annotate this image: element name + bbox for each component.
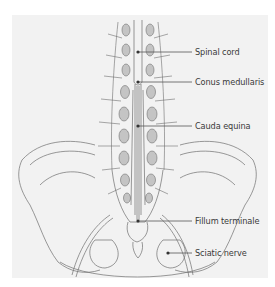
spine-pelvis-illustration (0, 0, 275, 287)
vertebral-column (98, 22, 178, 203)
label-sciatic-nerve: Sciatic nerve (195, 248, 247, 258)
right-sciatic-nerve (162, 215, 193, 275)
label-spinal-cord: Spinal cord (195, 47, 240, 57)
spinal-cord-lines (131, 20, 145, 220)
label-fillum-terminale: Fillum terminale (195, 216, 259, 226)
label-cauda-equina: Cauda equina (195, 121, 250, 131)
label-conus-medullaris: Conus medullaris (195, 77, 264, 87)
left-iliac-wing (19, 141, 100, 272)
